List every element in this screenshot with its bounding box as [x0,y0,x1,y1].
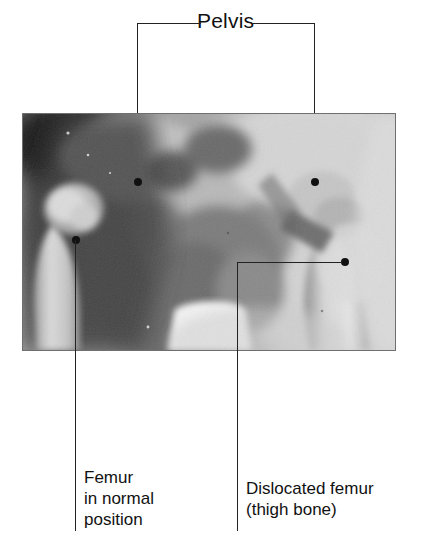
pelvis-label: Pelvis [197,9,254,33]
radiograph-figure: Pelvis [0,0,422,541]
femur-dislocated-caption: Dislocated femur (thigh bone) [246,478,374,520]
xray-image [22,113,396,351]
femur-dislocated-leader-vertical [237,262,238,531]
xray-canvas [22,113,396,351]
femur-normal-caption: Femur in normal position [84,467,154,530]
pelvis-left-marker-dot [134,178,142,186]
femur-dislocated-leader-horizontal [237,262,342,263]
pelvis-right-marker-dot [311,178,319,186]
femur-normal-leader-line [75,240,76,531]
pelvis-bracket-left-rule [137,23,201,24]
pelvis-bracket-right-rule [252,23,315,24]
